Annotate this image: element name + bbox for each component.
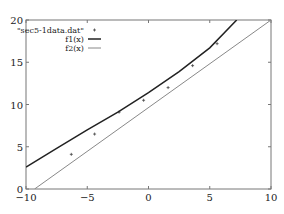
x-tick-label: −5 [80, 192, 95, 203]
axis-ticks: −10−5051005101520 [10, 15, 277, 203]
y-tick-label: 10 [10, 100, 23, 111]
x-tick-label: 5 [207, 192, 213, 203]
legend: "sec5-1data.dat"f1(x)f2(x) [17, 26, 101, 53]
x-tick-label: 10 [265, 192, 278, 203]
data-point [142, 99, 145, 102]
y-tick-label: 15 [10, 57, 23, 68]
data-point [216, 42, 219, 45]
plot-frame [26, 20, 271, 189]
data-point [191, 64, 194, 67]
legend-label: f1(x) [65, 35, 84, 44]
series-layer [26, 20, 271, 189]
chart: −10−5051005101520 "sec5-1data.dat"f1(x)f… [0, 0, 284, 214]
f1-curve [26, 20, 237, 167]
data-point [167, 86, 170, 89]
legend-label: f2(x) [65, 44, 84, 53]
data-point [93, 133, 96, 136]
legend-label: "sec5-1data.dat" [17, 26, 84, 35]
y-tick-label: 20 [10, 15, 23, 26]
data-point [70, 153, 73, 156]
plot-border [26, 20, 271, 189]
y-tick-label: 5 [17, 142, 23, 153]
y-tick-label: 0 [17, 184, 23, 195]
x-tick-label: 0 [145, 192, 151, 203]
